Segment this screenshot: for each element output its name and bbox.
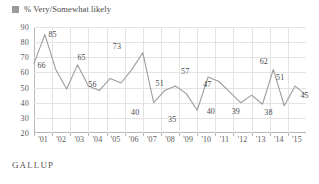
x-axis-tick-label: '05 bbox=[111, 135, 121, 144]
x-axis-tick bbox=[125, 133, 126, 136]
data-point-label: 40 bbox=[207, 107, 215, 116]
x-axis-tick bbox=[270, 133, 271, 136]
data-point-label: 73 bbox=[113, 42, 121, 51]
gallup-line-chart: % Very/Somewhat likely 2030405060708090 … bbox=[0, 0, 319, 184]
x-axis-tick bbox=[233, 133, 234, 136]
x-axis-tick bbox=[34, 133, 35, 136]
data-point-label: 51 bbox=[276, 73, 284, 82]
x-axis-tick bbox=[252, 133, 253, 136]
gallup-brand: GALLUP bbox=[12, 160, 54, 170]
x-axis-tick bbox=[107, 133, 108, 136]
legend-square-icon bbox=[12, 6, 19, 13]
x-axis-tick-label: '06 bbox=[129, 135, 139, 144]
y-axis-tick-label: 20 bbox=[21, 129, 29, 138]
x-axis-tick bbox=[143, 133, 144, 136]
x-axis-tick bbox=[215, 133, 216, 136]
x-axis-tick-label: '14 bbox=[274, 135, 284, 144]
data-point-label: 66 bbox=[38, 61, 46, 70]
y-axis-tick-label: 30 bbox=[21, 113, 29, 122]
x-axis-tick bbox=[288, 133, 289, 136]
data-point-label: 51 bbox=[156, 79, 164, 88]
y-axis-tick-label: 80 bbox=[21, 38, 29, 47]
y-axis-tick-label: 70 bbox=[21, 53, 29, 62]
y-axis-tick-label: 60 bbox=[21, 68, 29, 77]
x-axis-tick-label: '08 bbox=[165, 135, 175, 144]
data-point-label: 65 bbox=[77, 53, 85, 62]
legend-label: % Very/Somewhat likely bbox=[24, 4, 111, 14]
x-axis-tick-label: '09 bbox=[183, 135, 193, 144]
data-point-label: 40 bbox=[131, 108, 139, 117]
y-axis-tick-label: 90 bbox=[21, 23, 29, 32]
x-axis-tick-label: '10 bbox=[201, 135, 211, 144]
x-axis-tick bbox=[197, 133, 198, 136]
x-axis-tick-label: '02 bbox=[56, 135, 66, 144]
x-axis-tick bbox=[70, 133, 71, 136]
x-axis-tick-label: '11 bbox=[220, 135, 229, 144]
x-axis-tick-label: '01 bbox=[38, 135, 48, 144]
x-axis-tick-label: '07 bbox=[147, 135, 157, 144]
chart-legend: % Very/Somewhat likely bbox=[12, 4, 111, 14]
plot-area: 2030405060708090 '01'02'03'04'05'06'07'0… bbox=[34, 27, 306, 133]
data-point-label: 38 bbox=[264, 108, 272, 117]
data-point-label: 47 bbox=[203, 80, 211, 89]
data-point-label: 45 bbox=[301, 91, 309, 100]
x-axis-tick-label: '15 bbox=[292, 135, 302, 144]
x-axis-tick bbox=[161, 133, 162, 136]
x-axis-tick-label: '03 bbox=[74, 135, 84, 144]
y-axis-tick-label: 50 bbox=[21, 83, 29, 92]
x-axis-tick bbox=[179, 133, 180, 136]
y-axis-tick-label: 40 bbox=[21, 98, 29, 107]
data-point-label: 85 bbox=[48, 30, 56, 39]
series-polyline bbox=[34, 35, 306, 111]
x-axis-tick-label: '04 bbox=[93, 135, 103, 144]
x-axis-tick bbox=[52, 133, 53, 136]
x-axis-tick bbox=[88, 133, 89, 136]
data-point-label: 62 bbox=[260, 57, 268, 66]
x-axis-tick-label: '12 bbox=[238, 135, 248, 144]
data-point-label: 35 bbox=[168, 115, 176, 124]
x-axis-tick-label: '13 bbox=[256, 135, 266, 144]
data-point-label: 56 bbox=[88, 80, 96, 89]
data-point-label: 39 bbox=[232, 107, 240, 116]
data-point-label: 57 bbox=[181, 67, 189, 76]
